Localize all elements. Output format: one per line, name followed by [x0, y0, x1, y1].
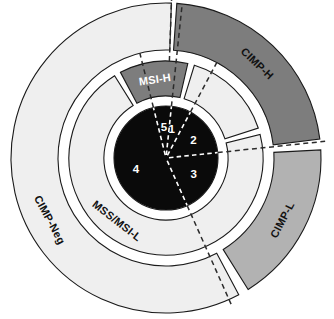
- core-sector-2-label: 2: [190, 134, 196, 146]
- core-sector-4-label: 4: [133, 163, 140, 175]
- core-sector-5-label: 5: [161, 121, 168, 133]
- core-sector-1-label: 1: [169, 123, 176, 135]
- sunburst-svg: CIMP-HCIMP-LCIMP-NegMSI-HMSS/MSI-L 12345: [0, 0, 334, 319]
- core-sector-3-label: 3: [191, 168, 197, 180]
- sunburst-diagram: CIMP-HCIMP-LCIMP-NegMSI-HMSS/MSI-L 12345: [0, 0, 334, 319]
